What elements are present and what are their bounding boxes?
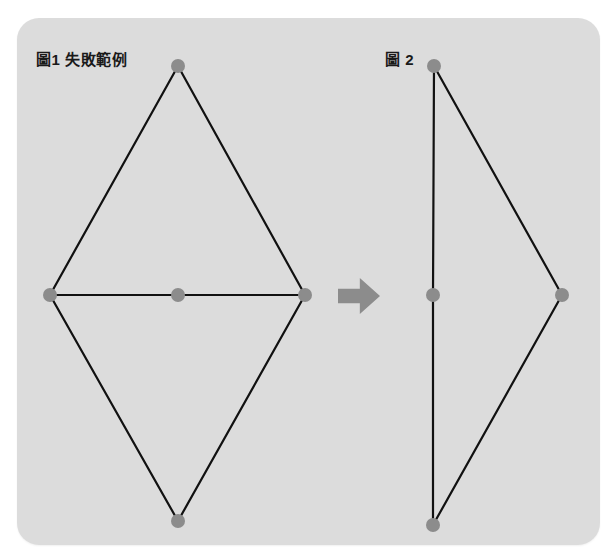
figure-1-node-left: [43, 288, 57, 302]
figure-1-node-center: [171, 288, 185, 302]
figure-1-edge-right-bottom: [178, 295, 305, 521]
figure-1-node-right: [298, 288, 312, 302]
figure-comparison-canvas: 圖1 失敗範例 圖 2: [0, 0, 615, 560]
figure-1-node-top: [171, 59, 185, 73]
figure-1-edge-top-right: [178, 66, 305, 295]
figure-2-label: 圖 2: [385, 52, 414, 67]
diagram-svg: [0, 0, 615, 560]
figure-2-node-bottom: [426, 518, 440, 532]
figure-1: [43, 59, 312, 528]
figure-1-edge-left-bottom: [50, 295, 178, 521]
figure-2-node-top: [427, 59, 441, 73]
transform-arrow-icon: [338, 278, 380, 314]
figure-1-edge-top-left: [50, 66, 178, 295]
figure-2-node-middle: [426, 288, 440, 302]
figure-2-edge-top-right: [434, 66, 562, 295]
figure-1-node-bottom: [171, 514, 185, 528]
figure-2-edge-right-bottom: [433, 295, 562, 525]
figure-2: [426, 59, 569, 532]
figure-1-label: 圖1 失敗範例: [36, 52, 127, 67]
figure-2-node-right: [555, 288, 569, 302]
figure-2-edge-top-middle: [433, 66, 434, 295]
